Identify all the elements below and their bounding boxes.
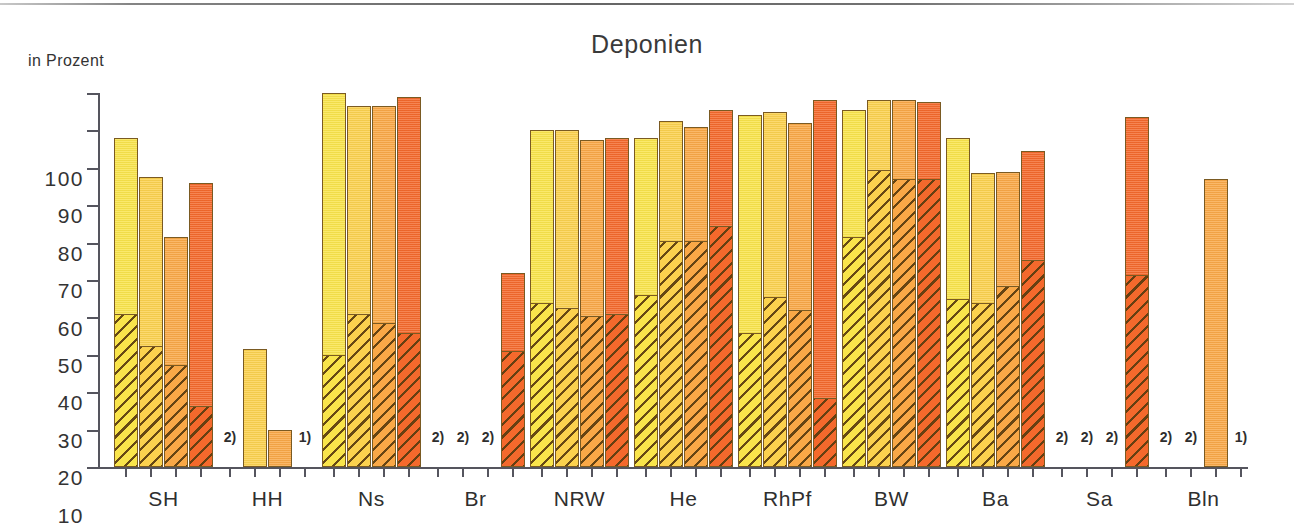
x-axis-group-label: NRW	[554, 487, 606, 511]
x-axis-tick	[749, 467, 751, 477]
x-axis-tick	[878, 467, 880, 477]
x-axis-tick	[383, 467, 385, 477]
bar-solid-segment	[269, 431, 291, 466]
y-axis-tick	[87, 392, 98, 394]
bar-hatched-segment	[372, 323, 396, 467]
bar[interactable]	[946, 138, 970, 467]
x-axis-tick	[229, 467, 231, 477]
bar-footnote-marker: 2)	[432, 429, 444, 445]
bar[interactable]	[892, 100, 916, 467]
x-axis-tick	[487, 467, 489, 477]
bar[interactable]	[243, 349, 267, 467]
x-axis-tick	[903, 467, 905, 477]
bar-hatched-segment	[842, 237, 866, 467]
x-axis-tick	[408, 467, 410, 477]
bar[interactable]	[322, 93, 346, 467]
x-axis-group-label: RhPf	[763, 487, 812, 511]
bar-hatched-segment	[397, 333, 421, 467]
bar-hatched-segment	[530, 303, 554, 467]
bar-hatched-segment	[605, 314, 629, 467]
bar[interactable]	[1204, 179, 1228, 467]
x-axis-group-label: Ns	[358, 487, 385, 511]
bar-hatched-segment	[813, 398, 837, 467]
bar[interactable]	[501, 273, 525, 467]
bar-hatched-segment	[139, 346, 163, 467]
y-axis-tick-label: 40	[14, 391, 84, 415]
x-axis-tick	[437, 467, 439, 477]
y-axis-tick-label: 60	[14, 317, 84, 341]
bar[interactable]	[659, 121, 683, 467]
bar[interactable]	[580, 140, 604, 467]
x-axis-group-label: Ba	[982, 487, 1009, 511]
y-axis-tick-label: 30	[14, 429, 84, 453]
x-axis-tick	[1086, 467, 1088, 477]
plot-area: 2)1)2)2)2)2)2)2)2)2)1) SHHHNsBrNRWHeRhPf…	[98, 86, 1248, 467]
bar-hatched-segment	[347, 314, 371, 467]
bar-hatched-segment	[684, 241, 708, 467]
y-axis-tick	[87, 93, 98, 95]
bar-hatched-segment	[1125, 275, 1149, 467]
x-axis-tick	[304, 467, 306, 477]
y-axis-tick	[87, 355, 98, 357]
bar[interactable]	[605, 138, 629, 467]
x-axis-tick	[982, 467, 984, 477]
bar[interactable]	[139, 177, 163, 467]
x-axis-tick	[720, 467, 722, 477]
x-axis-tick	[591, 467, 593, 477]
x-axis-tick	[695, 467, 697, 477]
x-axis-tick	[824, 467, 826, 477]
bar[interactable]	[842, 110, 866, 467]
bar-hatched-segment	[971, 303, 995, 467]
x-axis-tick	[670, 467, 672, 477]
x-axis-tick	[774, 467, 776, 477]
bar-hatched-segment	[659, 241, 683, 467]
bar[interactable]	[738, 115, 762, 467]
bar[interactable]	[530, 130, 554, 467]
bar-hatched-segment	[946, 299, 970, 467]
x-axis-group-label: Sa	[1086, 487, 1113, 511]
bar[interactable]	[917, 102, 941, 467]
bar-footnote-marker: 1)	[299, 429, 311, 445]
y-axis-line	[98, 93, 100, 467]
bar-hatched-segment	[1021, 260, 1045, 467]
x-axis-tick	[1165, 467, 1167, 477]
y-axis-tick-label: 20	[14, 466, 84, 490]
bar-solid-segment	[244, 350, 266, 466]
y-axis-tick	[87, 130, 98, 132]
bar[interactable]	[763, 112, 787, 467]
bar[interactable]	[813, 100, 837, 467]
x-axis-group-label: HH	[252, 487, 284, 511]
bar[interactable]	[189, 183, 213, 467]
bar-chart: Deponien in Prozent 10090807060504030201…	[0, 0, 1294, 530]
x-axis-tick	[512, 467, 514, 477]
bar[interactable]	[114, 138, 138, 467]
x-axis-tick	[1061, 467, 1063, 477]
y-axis-tick-label: 80	[14, 242, 84, 266]
bar[interactable]	[372, 106, 396, 467]
bar[interactable]	[555, 130, 579, 467]
bar-footnote-marker: 2)	[482, 429, 494, 445]
bar[interactable]	[788, 123, 812, 467]
x-axis-tick	[1136, 467, 1138, 477]
y-axis-tick-label: 50	[14, 354, 84, 378]
bar[interactable]	[1125, 117, 1149, 467]
bar[interactable]	[996, 172, 1020, 467]
bar[interactable]	[164, 237, 188, 467]
bar-footnote-marker: 2)	[1106, 429, 1118, 445]
bar[interactable]	[1021, 151, 1045, 467]
x-axis-tick	[150, 467, 152, 477]
x-axis-tick	[566, 467, 568, 477]
bar[interactable]	[684, 127, 708, 467]
bar-hatched-segment	[917, 179, 941, 467]
bar[interactable]	[397, 97, 421, 467]
bar-hatched-segment	[580, 316, 604, 467]
bar-footnote-marker: 2)	[1081, 429, 1093, 445]
bar-hatched-segment	[114, 314, 138, 467]
bar[interactable]	[347, 106, 371, 467]
bar[interactable]	[268, 430, 292, 467]
bar[interactable]	[867, 100, 891, 467]
bar[interactable]	[971, 173, 995, 467]
bar[interactable]	[634, 138, 658, 467]
bar[interactable]	[709, 110, 733, 467]
bar-hatched-segment	[996, 286, 1020, 467]
